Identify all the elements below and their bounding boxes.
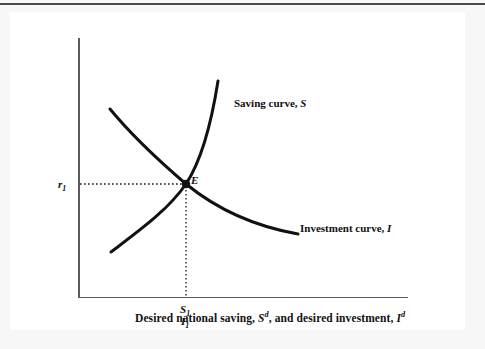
figure-container: Real interest rate, r E r1 S1 I1: [0, 0, 485, 349]
y-axis-tick-r1-subscript: 1: [62, 184, 66, 193]
investment-curve: [110, 109, 298, 234]
x-axis-label: Desired national saving, Sd, and desired…: [135, 312, 405, 324]
curves-svg: [78, 38, 408, 298]
y-axis-tick-r1: r1: [58, 178, 66, 190]
plot-area: E r1 S1 I1 Saving curve, S Investment cu…: [78, 38, 408, 298]
y-axis-label: Real interest rate, r: [0, 0, 1, 76]
top-divider-rule: [0, 3, 485, 5]
saving-curve-label-symbol: S: [300, 97, 306, 109]
x-axis-label-superscript-d2: d: [401, 310, 405, 319]
investment-curve-label-symbol: I: [387, 222, 391, 234]
equilibrium-point-label: E: [191, 174, 198, 186]
figure-panel: Real interest rate, r E r1 S1 I1: [10, 12, 465, 330]
equilibrium-point-marker: [182, 180, 190, 188]
saving-curve-label: Saving curve, S: [234, 97, 306, 109]
investment-curve-label: Investment curve, I: [300, 222, 391, 234]
